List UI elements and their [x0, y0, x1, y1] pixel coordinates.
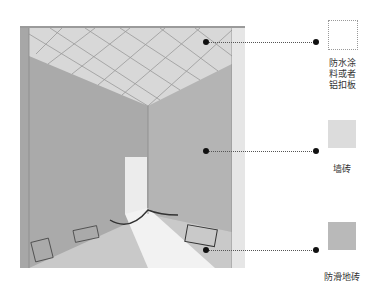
leader-line-wall	[209, 151, 316, 152]
leader-line-floor	[209, 250, 316, 251]
callout-end-dot-wall	[313, 148, 319, 154]
swatch-floor	[328, 222, 356, 250]
leader-line-ceiling	[209, 42, 316, 43]
swatch-wall	[328, 120, 356, 148]
label-ceiling: 防水涂 料或者 铝扣板	[322, 58, 362, 91]
label-floor: 防滑地砖	[318, 272, 366, 283]
callout-end-dot-floor	[313, 247, 319, 253]
label-wall: 墙砖	[322, 164, 362, 175]
callout-end-dot-ceiling	[313, 39, 319, 45]
swatch-ceiling	[328, 20, 358, 50]
